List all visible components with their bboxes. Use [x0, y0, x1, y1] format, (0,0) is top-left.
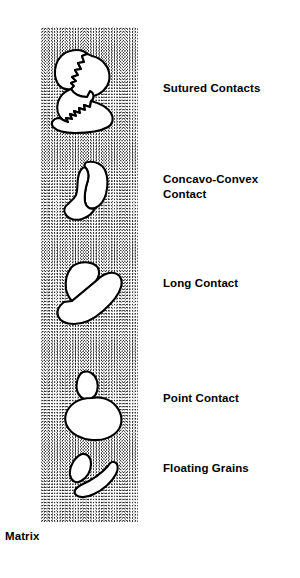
grain-contact-diagram: Sutured Contacts Concavo-Convex Contact …	[0, 0, 300, 578]
label-long-contact: Long Contact	[163, 276, 238, 291]
matrix-column	[41, 27, 138, 522]
label-point-contact: Point Contact	[163, 391, 239, 406]
label-concavo-convex-contact: Concavo-Convex Contact	[163, 172, 258, 201]
label-matrix: Matrix	[5, 529, 39, 544]
label-floating-grains: Floating Grains	[163, 461, 249, 476]
label-sutured-contacts: Sutured Contacts	[163, 81, 260, 96]
matrix-stipple-texture	[41, 27, 138, 522]
